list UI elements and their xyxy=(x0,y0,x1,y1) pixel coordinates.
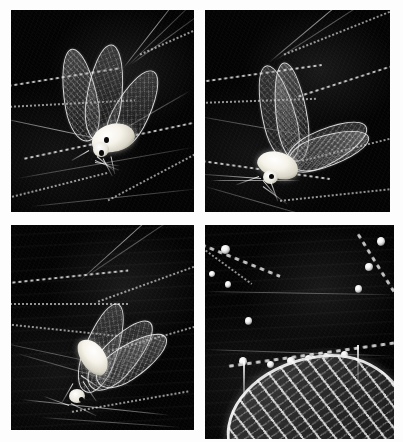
panel-top-left[interactable] xyxy=(11,10,194,212)
dew-droplet xyxy=(221,245,230,254)
scene-bottom-right xyxy=(205,225,394,439)
dew-droplet xyxy=(365,263,373,271)
scene-top-right xyxy=(205,10,390,212)
dew-droplet xyxy=(355,285,362,293)
panel-top-right[interactable] xyxy=(205,10,390,212)
dew-droplet xyxy=(267,361,274,368)
panel-bottom-left[interactable] xyxy=(11,225,194,430)
panel-bottom-right[interactable] xyxy=(205,225,394,439)
insect-eye xyxy=(79,397,84,402)
dew-droplet xyxy=(225,281,231,288)
photo-plate xyxy=(0,0,403,442)
insect-eye xyxy=(104,137,109,143)
insect-eye xyxy=(99,150,104,156)
scene-top-left xyxy=(11,10,194,212)
insect-eye xyxy=(269,174,274,179)
dew-droplet xyxy=(377,237,385,246)
silk-strand xyxy=(211,180,301,181)
dew-droplet xyxy=(245,317,252,325)
scene-bottom-left xyxy=(11,225,194,430)
dew-droplet xyxy=(209,271,215,277)
